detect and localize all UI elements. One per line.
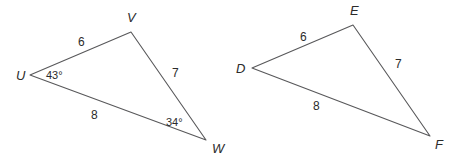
vertex-label-f: F: [435, 137, 444, 152]
triangle-def: D E F 6 7 8: [236, 3, 444, 152]
side-label-uw: 8: [91, 108, 98, 122]
vertex-label-e: E: [350, 3, 359, 18]
triangle-def-outline: [252, 25, 430, 136]
vertex-label-w: W: [212, 141, 226, 156]
vertex-label-v: V: [127, 10, 137, 25]
triangle-uvw: U V W 6 7 8 43° 34°: [16, 10, 226, 156]
triangles-canvas: U V W 6 7 8 43° 34° D E F 6 7 8: [0, 0, 451, 163]
side-label-vw: 7: [172, 66, 179, 80]
side-label-df: 8: [313, 99, 320, 113]
side-label-uv: 6: [78, 35, 85, 49]
side-label-ef: 7: [395, 57, 402, 71]
angle-label-u: 43°: [46, 69, 63, 81]
side-label-de: 6: [300, 30, 307, 44]
geometry-figure: U V W 6 7 8 43° 34° D E F 6 7 8: [0, 0, 451, 163]
vertex-label-u: U: [16, 68, 26, 83]
angle-label-w: 34°: [166, 116, 183, 128]
vertex-label-d: D: [236, 61, 245, 76]
